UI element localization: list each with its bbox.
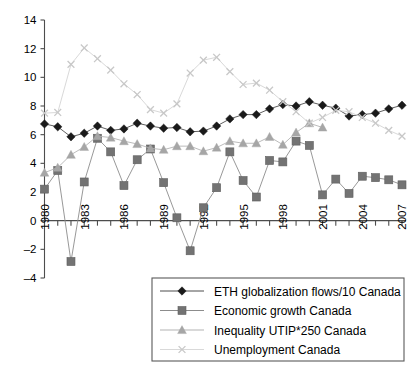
square-marker (41, 185, 49, 193)
triangle-marker (67, 150, 76, 158)
x-tick-label: 1980 (39, 204, 51, 230)
diamond-marker (318, 101, 326, 109)
square-marker (345, 189, 353, 197)
square-marker (120, 182, 128, 190)
x-tick-label: 1986 (118, 204, 130, 230)
square-marker (319, 191, 327, 199)
series-1 (41, 134, 407, 265)
diamond-marker (239, 110, 247, 118)
y-tick-label: –4 (24, 272, 37, 284)
diamond-marker (54, 123, 62, 131)
diamond-marker (146, 122, 154, 130)
diamond-marker (226, 115, 234, 123)
cross-marker (226, 68, 233, 75)
square-marker (279, 158, 287, 166)
line-chart: 14121086420–2–4 198019831986198919921995… (0, 0, 418, 373)
chart-container: 14121086420–2–4 198019831986198919921995… (0, 0, 418, 373)
x-tick-label: 2001 (317, 204, 329, 230)
square-marker (239, 177, 247, 185)
diamond-marker (159, 124, 167, 132)
square-marker (305, 141, 313, 149)
diamond-marker (305, 98, 313, 106)
y-tick-label: 10 (24, 71, 37, 83)
diamond-marker (186, 128, 194, 136)
y-axis: 14121086420–2–4 (24, 14, 45, 284)
legend-label: ETH globalization flows/10 Canada (214, 285, 401, 299)
square-marker (252, 193, 260, 201)
x-tick-label: 1983 (79, 204, 91, 230)
diamond-marker (199, 127, 207, 135)
x-tick-label: 2007 (397, 204, 409, 230)
x-axis: 1980198319861989199219951998200120042007 (39, 203, 409, 229)
y-tick-label: 6 (30, 129, 36, 141)
triangle-marker (292, 128, 301, 136)
square-marker (133, 156, 141, 164)
y-tick-label: 2 (30, 186, 36, 198)
x-tick-label: 1989 (158, 204, 170, 230)
square-marker (372, 174, 380, 182)
cross-marker (187, 70, 194, 77)
square-marker (226, 148, 234, 156)
diamond-marker (80, 129, 88, 137)
diamond-marker (371, 109, 379, 117)
diamond-marker (93, 122, 101, 130)
triangle-marker (212, 143, 221, 151)
square-marker (80, 178, 88, 186)
square-marker (332, 175, 340, 183)
y-tick-label: 12 (24, 43, 37, 55)
diamond-marker (133, 119, 141, 127)
series-2 (40, 119, 327, 176)
square-marker (213, 184, 221, 192)
diamond-marker (212, 122, 220, 130)
y-tick-label: 14 (24, 14, 37, 26)
cross-marker (200, 57, 207, 64)
diamond-marker (67, 133, 75, 141)
diamond-marker (120, 125, 128, 133)
triangle-marker (80, 142, 89, 150)
cross-marker (385, 127, 392, 134)
legend-label: Economic growth Canada (214, 304, 352, 318)
cross-marker (147, 106, 154, 113)
square-marker (160, 179, 168, 187)
cross-marker (134, 91, 141, 98)
y-tick-label: 0 (30, 215, 36, 227)
x-tick-label: 1995 (238, 204, 250, 230)
chart-legend: ETH globalization flows/10 CanadaEconomi… (152, 278, 404, 361)
square-marker (178, 307, 186, 315)
cross-marker (174, 100, 181, 107)
cross-marker (81, 45, 88, 52)
diamond-marker (40, 120, 48, 128)
y-tick-label: 8 (30, 100, 36, 112)
square-marker (107, 148, 115, 156)
square-marker (199, 204, 207, 212)
square-marker (266, 156, 274, 164)
y-tick-label: –2 (24, 243, 37, 255)
triangle-marker (318, 123, 327, 131)
x-tick-label: 1998 (277, 204, 289, 230)
square-marker (173, 214, 181, 222)
triangle-marker (40, 168, 49, 176)
square-marker (398, 181, 406, 189)
cross-marker (121, 80, 128, 87)
square-marker (292, 137, 300, 145)
cross-marker (372, 120, 379, 127)
square-marker (186, 247, 194, 255)
cross-marker (319, 114, 326, 121)
diamond-marker (398, 101, 406, 109)
cross-marker (107, 67, 114, 74)
diamond-marker (385, 105, 393, 113)
legend-label: Inequality UTIP*250 Canada (214, 324, 366, 338)
triangle-marker (265, 132, 274, 140)
diamond-marker (265, 105, 273, 113)
y-tick-label: 4 (30, 157, 37, 169)
cross-marker (68, 61, 75, 68)
legend-label: Unemployment Canada (214, 343, 340, 357)
cross-marker (213, 54, 220, 61)
diamond-marker (173, 123, 181, 131)
cross-marker (160, 110, 167, 117)
diamond-marker (252, 110, 260, 118)
data-series-group (40, 45, 406, 266)
x-tick-label: 2004 (357, 203, 369, 229)
cross-marker (266, 87, 273, 94)
cross-marker (94, 55, 101, 62)
